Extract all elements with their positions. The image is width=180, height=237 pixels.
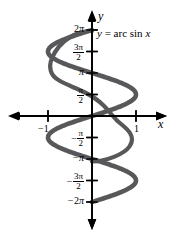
equation-label: y = arc sin x	[97, 28, 150, 39]
x-tick-label-1: 1	[134, 124, 139, 134]
minus-sign: −	[71, 134, 77, 144]
fraction-denominator: 2	[73, 53, 84, 62]
y-tick-label-neg-pi-over-2: − π 2	[56, 129, 84, 148]
equation-equals: =	[105, 27, 111, 39]
y-tick-label-neg-3pi-over-2: − 3π 2	[54, 172, 84, 191]
y-tick-label-neg-2pi: −2π	[52, 195, 84, 206]
figure-render	[0, 0, 180, 237]
y-tick-pi-symbol: π	[79, 67, 84, 77]
fraction-3pi-over-2: 3π 2	[73, 43, 84, 62]
x-axis-label: x	[158, 118, 163, 130]
y-tick-neg-pi-symbol: π	[79, 153, 84, 163]
fraction-3pi-over-2: 3π 2	[73, 172, 84, 191]
minus-sign: −	[68, 196, 74, 206]
arcsin-graph-figure: y x y = arc sin x 2π 3π 2 π π 2 − π 2 −π…	[0, 0, 180, 237]
y-axis-up-arrow-icon	[88, 10, 97, 21]
equation-function: arc sin	[114, 27, 143, 39]
y-axis-down-arrow-icon	[88, 219, 97, 230]
y-axis-label: y	[98, 10, 103, 22]
fraction-denominator: 2	[73, 182, 84, 191]
fraction-pi-over-2: π 2	[77, 129, 84, 148]
fraction-denominator: 2	[77, 139, 84, 148]
y-tick-label-3pi-over-2: 3π 2	[62, 43, 84, 62]
fraction-pi-over-2: π 2	[77, 86, 84, 105]
minus-sign: −	[67, 177, 73, 187]
fraction-denominator: 2	[77, 96, 84, 105]
y-tick-neg-2pi-pi-symbol: π	[79, 196, 84, 206]
equation-lhs: y	[97, 27, 102, 39]
y-tick-label-pi: π	[62, 66, 84, 77]
equation-variable: x	[145, 27, 150, 39]
x-axis-left-arrow-icon	[8, 112, 19, 121]
y-tick-2pi-pi-symbol: π	[79, 24, 84, 34]
x-tick-label-neg-1: −1	[38, 124, 49, 134]
y-tick-label-pi-over-2: π 2	[62, 86, 84, 105]
y-tick-label-neg-pi: −π	[56, 152, 84, 163]
y-tick-label-2pi: 2π	[60, 23, 84, 34]
minus-sign: −	[73, 153, 79, 163]
